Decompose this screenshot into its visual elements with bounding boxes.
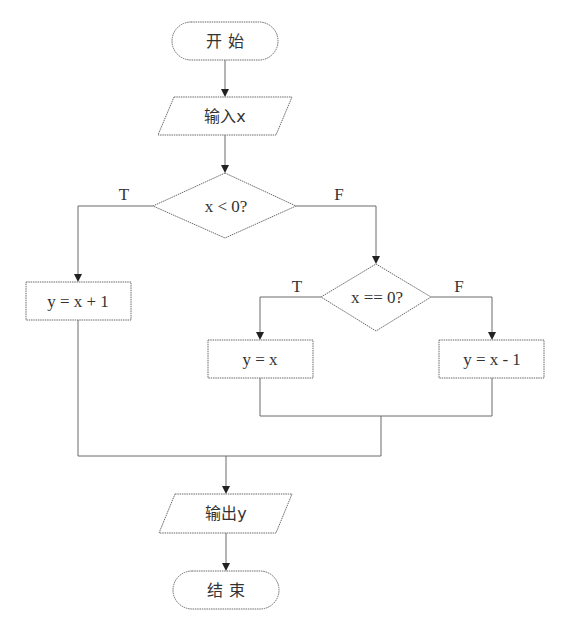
connector-decision1-true [78,206,153,275]
decision1-label: x < 0? [205,197,248,216]
arrow-head-icon [221,165,229,173]
arrow-head-icon [74,274,82,282]
arrow-head-icon [221,89,229,97]
end-label: 结 束 [207,581,244,600]
decision1-true-label: T [119,185,130,204]
process-false2-label: y = x - 1 [463,350,521,369]
decision2-false-label: F [454,277,463,296]
process-y-equals-x: y = x [208,340,313,378]
arrow-head-icon [372,256,380,264]
connector-decision1-false [296,206,376,257]
input-node: 输入x [158,97,292,135]
arrow-head-icon [256,332,264,340]
process-true2-label: y = x [242,350,278,369]
decision2-true-label: T [292,277,303,296]
start-label: 开 始 [206,32,243,51]
output-label: 输出y [205,504,246,523]
connector-inner-merge [260,378,492,416]
input-label: 输入x [204,107,245,126]
decision2-label: x == 0? [351,288,403,307]
end-terminal: 结 束 [173,571,279,609]
connector-decision2-false [431,297,492,333]
flowchart-diagram: 开 始 输入x x < 0? T F y = x + 1 x == 0? T F… [0,0,562,633]
process-y-equals-x-minus-1: y = x - 1 [439,340,544,378]
connector-decision2-true [260,297,321,333]
arrow-head-icon [222,563,230,571]
arrow-head-icon [222,486,230,494]
decision1-false-label: F [334,185,343,204]
process-y-equals-x-plus-1: y = x + 1 [26,282,131,320]
flowchart-canvas: 开 始 输入x x < 0? T F y = x + 1 x == 0? T F… [0,0,562,633]
output-node: 输出y [159,494,292,533]
process-true1-label: y = x + 1 [47,292,109,311]
arrow-head-icon [488,332,496,340]
start-terminal: 开 始 [172,22,278,60]
